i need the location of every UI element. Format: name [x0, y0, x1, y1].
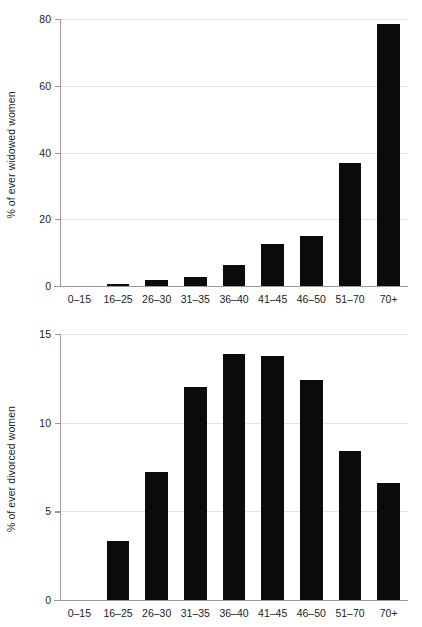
x-category-label: 70+ [380, 608, 398, 619]
bar [377, 24, 399, 286]
chart-panel-divorced: % of ever divorced women 051015 0–1516–2… [0, 310, 422, 627]
y-tick-mark [55, 219, 60, 220]
plot-area-divorced: 051015 0–1516–2526–3031–3536–4041–4546–5… [60, 334, 408, 600]
bar [300, 380, 322, 600]
x-category-label: 46–50 [297, 608, 326, 619]
x-category-label: 36–40 [219, 608, 248, 619]
bars-widowed [60, 19, 408, 286]
y-tick-label: 80 [39, 14, 51, 25]
bars-divorced [60, 334, 408, 600]
two-panel-bar-chart-figure: % of ever widowed women 020406080 0–1516… [0, 0, 422, 627]
y-tick-label: 60 [39, 81, 51, 92]
y-tick-label: 0 [45, 281, 51, 292]
y-tick-label: 15 [39, 329, 51, 340]
bar [184, 387, 206, 600]
y-tick-mark [55, 600, 60, 601]
chart-panel-widowed: % of ever widowed women 020406080 0–1516… [0, 0, 422, 310]
x-category-label: 26–30 [142, 608, 171, 619]
x-category-label: 41–45 [258, 294, 287, 305]
bar [223, 265, 245, 286]
y-tick-mark [55, 19, 60, 20]
y-axis-title-widowed: % of ever widowed women [0, 0, 22, 310]
bar [339, 451, 361, 600]
x-category-label: 41–45 [258, 608, 287, 619]
bar [339, 163, 361, 286]
y-tick-label: 5 [45, 506, 51, 517]
bar [377, 483, 399, 600]
bar [300, 236, 322, 286]
bar [261, 244, 283, 286]
bar [145, 472, 167, 600]
y-tick-mark [55, 511, 60, 512]
x-category-label: 26–30 [142, 294, 171, 305]
x-category-label: 16–25 [103, 608, 132, 619]
x-category-label: 36–40 [219, 294, 248, 305]
x-category-label: 0–15 [68, 608, 91, 619]
bar [107, 541, 129, 600]
y-axis-line-divorced [60, 334, 61, 600]
y-tick-mark [55, 286, 60, 287]
x-category-label: 51–70 [335, 294, 364, 305]
y-tick-mark [55, 86, 60, 87]
y-axis-title-divorced: % of ever divorced women [0, 310, 22, 627]
bar [223, 354, 245, 600]
x-category-label: 16–25 [103, 294, 132, 305]
bar [184, 277, 206, 286]
x-category-label: 46–50 [297, 294, 326, 305]
x-axis-line-widowed [54, 286, 408, 287]
y-tick-label: 10 [39, 417, 51, 428]
bar [261, 356, 283, 600]
y-tick-mark [55, 334, 60, 335]
y-axis-line-widowed [60, 19, 61, 286]
x-category-label: 0–15 [68, 294, 91, 305]
x-category-label: 51–70 [335, 608, 364, 619]
y-tick-mark [55, 423, 60, 424]
y-tick-label: 0 [45, 595, 51, 606]
y-tick-label: 20 [39, 214, 51, 225]
x-axis-line-divorced [54, 600, 408, 601]
x-category-label: 31–35 [181, 608, 210, 619]
y-tick-mark [55, 153, 60, 154]
x-category-label: 70+ [380, 294, 398, 305]
plot-area-widowed: 020406080 0–1516–2526–3031–3536–4041–454… [60, 19, 408, 286]
y-tick-label: 40 [39, 147, 51, 158]
x-category-label: 31–35 [181, 294, 210, 305]
